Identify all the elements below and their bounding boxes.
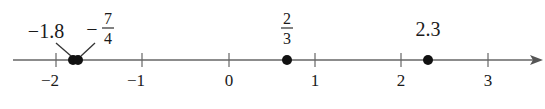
fraction-sign: − (86, 18, 97, 40)
tick-label-0: 0 (225, 71, 234, 90)
tick-label-1: 1 (311, 71, 320, 90)
fraction-numerator: 2 (283, 10, 291, 27)
tick-label-neg1: −1 (127, 71, 145, 90)
number-line-diagram: −2 −1 0 1 2 3 −1.8 − 7 4 2 3 2.3 (0, 0, 545, 109)
leader-line-neg7-4 (81, 43, 95, 56)
tick-label-3: 3 (484, 71, 493, 90)
point-2-3-decimal (423, 55, 433, 65)
point-label-neg1-8: −1.8 (28, 20, 64, 42)
point-label-2-3-decimal: 2.3 (416, 18, 441, 40)
fraction-denominator: 4 (104, 30, 112, 47)
tick-label-2: 2 (397, 71, 406, 90)
fraction-denominator: 3 (283, 30, 291, 47)
fraction-numerator: 7 (104, 10, 112, 27)
tick-label-neg2: −2 (41, 71, 59, 90)
point-2-3 (282, 55, 292, 65)
leader-line-neg1-8 (56, 43, 71, 56)
point-neg7-4 (73, 55, 83, 65)
point-label-2-3: 2 3 (281, 10, 293, 47)
point-label-neg7-4: − 7 4 (86, 10, 114, 47)
